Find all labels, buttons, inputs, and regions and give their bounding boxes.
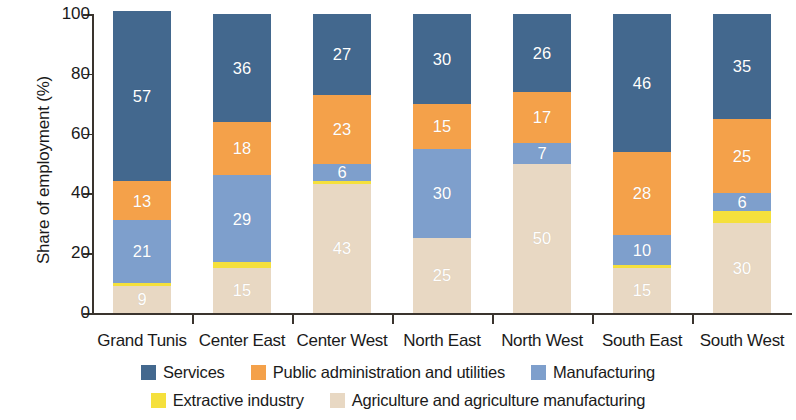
bar-segment-value: 9 (137, 291, 146, 308)
bar-segment[interactable]: 7 (513, 143, 571, 164)
bar-segment[interactable]: 26 (513, 14, 571, 92)
bar-segment[interactable]: 43 (313, 184, 371, 313)
bar-segment[interactable] (713, 211, 771, 223)
legend-item-extractive-industry[interactable]: Extractive industry (151, 391, 304, 410)
y-axis-tick-label: 40 (30, 183, 90, 203)
bar-segment-value: 27 (333, 46, 351, 63)
y-axis-tick-label: 80 (30, 64, 90, 84)
bar-south-west[interactable]: 3525630 (713, 14, 771, 313)
bar-segment[interactable]: 35 (713, 14, 771, 119)
bar-segment-value: 57 (133, 88, 151, 105)
legend-item-agriculture-and-agriculture-manufacturing[interactable]: Agriculture and agriculture manufacturin… (330, 391, 646, 410)
y-axis-line (92, 14, 94, 313)
legend-swatch-icon (251, 365, 266, 380)
bar-segment-value: 13 (133, 193, 151, 210)
bar-segment-value: 35 (733, 58, 751, 75)
bar-segment[interactable]: 18 (213, 122, 271, 176)
bar-segment-value: 29 (233, 211, 251, 228)
x-axis-tick (592, 313, 594, 324)
legend-swatch-icon (141, 365, 156, 380)
bar-segment[interactable]: 28 (613, 152, 671, 236)
bar-segment-value: 43 (333, 240, 351, 257)
x-axis-line (92, 313, 792, 315)
bar-segment-value: 23 (333, 121, 351, 138)
bar-segment-value: 6 (337, 164, 346, 181)
bar-segment[interactable]: 6 (713, 193, 771, 211)
legend-item-services[interactable]: Services (141, 363, 225, 382)
y-axis-tick-label: 20 (30, 243, 90, 263)
bar-segment[interactable]: 6 (313, 164, 371, 182)
x-axis-tick (292, 313, 294, 324)
chart-legend: ServicesPublic administration and utilit… (0, 358, 796, 414)
x-axis-tick (692, 313, 694, 324)
bar-segment[interactable]: 50 (513, 164, 571, 314)
bar-south-east[interactable]: 46281015 (613, 14, 671, 313)
legend-label: Public administration and utilities (273, 363, 505, 382)
bar-segment-value: 7 (537, 145, 546, 162)
x-axis-tick (192, 313, 194, 324)
legend-swatch-icon (151, 393, 166, 408)
bar-segment[interactable]: 46 (613, 14, 671, 152)
bar-segment[interactable]: 29 (213, 175, 271, 262)
x-axis-tick (492, 313, 494, 324)
bar-north-east[interactable]: 30153025 (413, 14, 471, 313)
bar-segment-value: 26 (533, 45, 551, 62)
bar-segment-value: 30 (433, 51, 451, 68)
bar-segment[interactable]: 30 (713, 223, 771, 313)
legend-item-manufacturing[interactable]: Manufacturing (531, 363, 655, 382)
legend-row: Extractive industryAgriculture and agric… (0, 386, 796, 414)
legend-swatch-icon (330, 393, 345, 408)
bar-grand-tunis[interactable]: 5713219 (113, 11, 171, 313)
legend-swatch-icon (531, 365, 546, 380)
bar-segment-value: 6 (737, 194, 746, 211)
plot-area: 0204060801005713219Grand Tunis36182915Ce… (92, 14, 792, 313)
bar-segment-value: 15 (633, 282, 651, 299)
bar-segment[interactable]: 36 (213, 14, 271, 122)
bar-segment[interactable]: 17 (513, 92, 571, 143)
bar-north-west[interactable]: 2617750 (513, 14, 571, 313)
legend-item-public-administration-and-utilities[interactable]: Public administration and utilities (251, 363, 505, 382)
x-axis-tick (392, 313, 394, 324)
bar-segment[interactable]: 25 (713, 119, 771, 194)
bar-segment[interactable]: 21 (113, 220, 171, 283)
bar-segment-value: 25 (733, 148, 751, 165)
bar-segment[interactable]: 9 (113, 286, 171, 313)
bar-segment-value: 36 (233, 60, 251, 77)
bar-segment-value: 50 (533, 230, 551, 247)
bar-segment[interactable]: 57 (113, 11, 171, 181)
y-axis-tick-label: 60 (30, 124, 90, 144)
bar-segment[interactable]: 30 (413, 14, 471, 104)
bar-segment[interactable]: 25 (413, 238, 471, 313)
bar-segment[interactable]: 15 (213, 268, 271, 313)
y-axis-tick-label: 100 (30, 4, 90, 24)
bar-segment-value: 30 (433, 185, 451, 202)
legend-label: Extractive industry (173, 391, 304, 410)
legend-label: Services (163, 363, 225, 382)
bar-segment[interactable]: 15 (413, 104, 471, 149)
bar-center-west[interactable]: 2723643 (313, 14, 371, 313)
bar-segment[interactable]: 13 (113, 181, 171, 220)
bar-segment[interactable]: 30 (413, 149, 471, 239)
bar-segment-value: 10 (633, 242, 651, 259)
bar-segment[interactable]: 10 (613, 235, 671, 265)
bar-segment-value: 46 (633, 75, 651, 92)
bar-segment-value: 21 (133, 243, 151, 260)
bar-segment[interactable]: 27 (313, 14, 371, 95)
bar-center-east[interactable]: 36182915 (213, 14, 271, 313)
bar-segment-value: 18 (233, 140, 251, 157)
legend-label: Agriculture and agriculture manufacturin… (352, 391, 646, 410)
y-axis-tick-label: 0 (30, 303, 90, 323)
bar-segment[interactable]: 23 (313, 95, 371, 164)
x-axis-label-south-west: South West (680, 331, 796, 351)
bar-segment-value: 17 (533, 109, 551, 126)
stacked-bar-chart: Share of employment (%) 0204060801005713… (0, 0, 796, 420)
bar-segment-value: 15 (433, 118, 451, 135)
bar-segment[interactable]: 15 (613, 268, 671, 313)
bar-segment-value: 30 (733, 260, 751, 277)
bar-segment-value: 15 (233, 282, 251, 299)
bar-segment-value: 25 (433, 267, 451, 284)
legend-row: ServicesPublic administration and utilit… (0, 358, 796, 386)
bar-segment-value: 28 (633, 185, 651, 202)
legend-label: Manufacturing (553, 363, 655, 382)
